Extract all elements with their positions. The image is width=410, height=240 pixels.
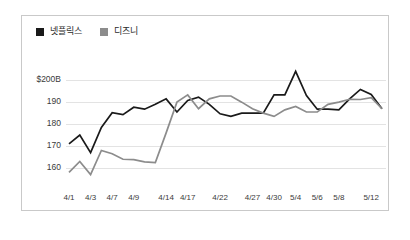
y-tick-label-2: 180 (47, 118, 61, 128)
x-tick-label-7: 4/27 (245, 193, 261, 202)
y-tick-label-3: 170 (47, 140, 61, 150)
y-tick-label-1: 190 (47, 96, 61, 106)
x-tick-label-10: 5/6 (312, 193, 324, 202)
x-tick-label-12: 5/12 (363, 193, 379, 202)
y-tick-label-0: $200B (36, 74, 61, 84)
y-axis-labels: $200B190180170160 (36, 74, 61, 172)
x-tick-label-6: 4/22 (212, 193, 228, 202)
chart-card: 넷플릭스 디즈니 $200B190180170160 4/14/34/74/94… (21, 15, 389, 211)
x-tick-label-3: 4/9 (128, 193, 140, 202)
x-tick-label-0: 4/1 (63, 193, 75, 202)
x-tick-label-4: 4/14 (158, 193, 174, 202)
line-chart-plot: $200B190180170160 4/14/34/74/94/144/174/… (22, 16, 388, 210)
y-tick-label-4: 160 (47, 162, 61, 172)
x-axis-labels: 4/14/34/74/94/144/174/224/274/305/45/65/… (63, 193, 379, 202)
series-line-disney (69, 95, 382, 175)
x-tick-label-11: 5/8 (333, 193, 345, 202)
x-tick-label-5: 4/17 (180, 193, 196, 202)
x-tick-label-1: 4/3 (85, 193, 97, 202)
x-tick-label-2: 4/7 (107, 193, 119, 202)
series-line-netflix (69, 71, 382, 152)
x-tick-label-8: 4/30 (266, 193, 282, 202)
x-tick-label-9: 5/4 (290, 193, 302, 202)
data-series (69, 71, 382, 174)
